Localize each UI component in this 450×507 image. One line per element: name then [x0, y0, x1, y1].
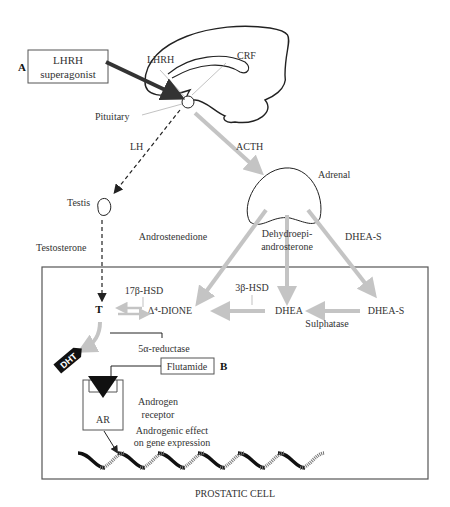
- label-5a-reductase: 5α-reductase: [138, 343, 190, 354]
- label-flutamide: Flutamide: [167, 361, 208, 372]
- label-ar: AR: [96, 414, 110, 425]
- label-dhea: DHEA: [275, 305, 304, 316]
- label-lhrh: LHRH: [147, 54, 174, 65]
- label-dhea-s-top: DHEA-S: [345, 231, 382, 242]
- lhrh-superagonist-line1: LHRH: [53, 54, 83, 66]
- label-testosterone: Testosterone: [36, 242, 87, 253]
- label-testis: Testis: [67, 197, 90, 208]
- lh-arrow: [115, 110, 180, 192]
- marker-b: B: [220, 360, 228, 372]
- label-effect-2: on gene expression: [134, 437, 211, 448]
- marker-a: A: [18, 61, 26, 73]
- cell-title: PROSTATIC CELL: [195, 488, 275, 499]
- dna-helix-icon: [78, 453, 325, 468]
- dht-tag: DHT: [53, 344, 85, 374]
- brain-icon: [142, 26, 289, 122]
- dhea-s-arrow: [308, 210, 372, 292]
- ar-to-dna-arrow: [104, 431, 117, 452]
- label-dhea-s: DHEA-S: [368, 305, 405, 316]
- testis-icon: [98, 198, 111, 215]
- label-lh: LH: [130, 141, 143, 152]
- superagonist-arrow: [106, 62, 178, 96]
- label-pituitary: Pituitary: [95, 111, 129, 122]
- label-dhea-full-1: Dehydroepi-: [262, 228, 313, 239]
- label-adrenal: Adrenal: [318, 169, 350, 180]
- lhrh-superagonist-line2: superagonist: [40, 68, 96, 80]
- label-17b-hsd: 17β-HSD: [125, 285, 163, 296]
- prostatic-cell-box: [42, 267, 428, 479]
- label-dhea-full-2: androsterone: [261, 241, 313, 252]
- label-sulphatase: Sulphatase: [305, 318, 349, 329]
- label-androstenedione: Androstenedione: [139, 231, 208, 242]
- label-androgen-receptor-2: receptor: [142, 409, 175, 420]
- t-to-dht-arrow: [84, 322, 100, 349]
- diagram-canvas: A LHRH superagonist LHRH CRF Pituitary L…: [0, 0, 450, 507]
- label-dione: Δ⁴-DIONE: [148, 305, 192, 316]
- label-t: T: [95, 303, 103, 315]
- label-3b-hsd: 3β-HSD: [235, 282, 268, 293]
- reductase-bracket: [110, 333, 162, 338]
- label-crf: CRF: [237, 50, 256, 61]
- label-effect-1: Androgenic effect: [136, 425, 209, 436]
- flutamide-line: [111, 366, 161, 378]
- label-acth: ACTH: [236, 141, 263, 152]
- label-androgen-receptor-1: Androgen: [138, 396, 178, 407]
- adrenal-icon: [247, 168, 321, 224]
